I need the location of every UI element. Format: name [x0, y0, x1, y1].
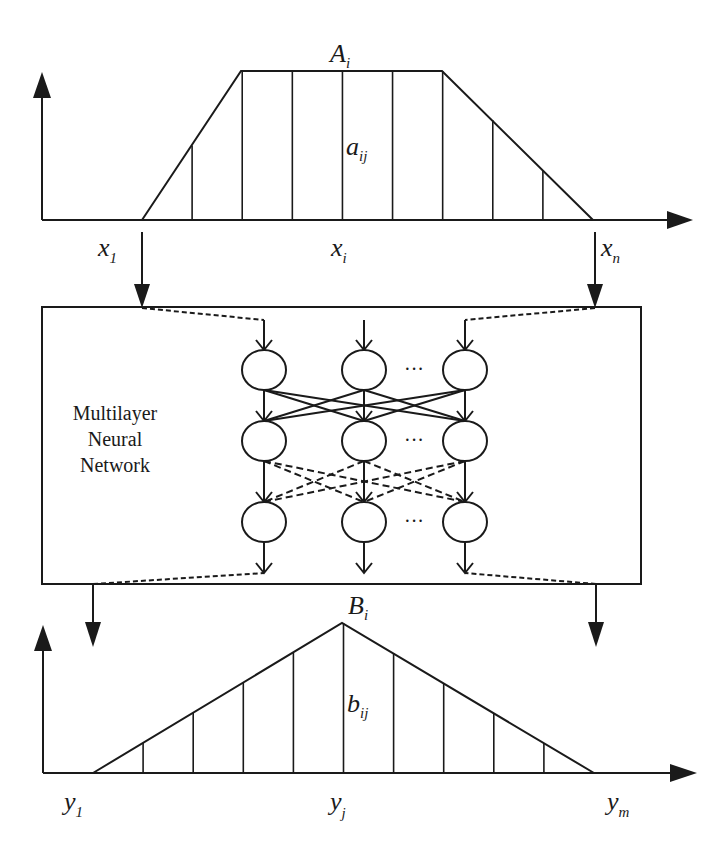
output-arrows [85, 584, 604, 647]
fan-in-left [142, 308, 264, 320]
input-x-axis-arrowhead [667, 211, 693, 229]
neural-network-box: Multilayer Neural Network ········· [42, 307, 641, 584]
input-set-label: Ai [328, 39, 350, 71]
input-member-label: aij [346, 132, 367, 164]
input-arrow-x1-head [134, 284, 150, 308]
input-arrow-xn-head [587, 284, 603, 308]
neuron-node-l2-n2 [342, 421, 386, 461]
neuron-node-l1-n3 [443, 350, 487, 390]
output-label-ym: ym [604, 787, 630, 820]
neuron-node-l2-n1 [242, 421, 286, 461]
trapezoid-membership-function [142, 71, 593, 220]
neuron-node-l3-n3 [443, 502, 487, 542]
neuron-node-l2-n3 [443, 421, 487, 461]
input-y-axis-arrowhead [33, 72, 51, 98]
output-label-y1: y1 [61, 787, 83, 820]
fuzzy-neural-diagram: Ai aij x1 xi xn Multilayer Neural Networ… [0, 0, 718, 855]
network-label-line-1: Multilayer [73, 402, 158, 425]
output-label-yj: yj [327, 787, 346, 821]
fan-out-left [93, 573, 264, 584]
output-y-axis-arrowhead [34, 625, 52, 651]
ellipsis-more-nodes: ··· [404, 358, 424, 380]
network-label-line-2: Neural [88, 428, 143, 450]
output-member-label: bij [347, 689, 368, 721]
output-set-label: Bi [348, 591, 368, 623]
input-membership-lines [192, 71, 543, 220]
network-label-line-3: Network [80, 454, 150, 476]
input-arrows [134, 232, 603, 308]
input-label-x1: x1 [97, 233, 117, 266]
fan-in-right [465, 308, 595, 320]
neuron-node-l1-n2 [342, 350, 386, 390]
output-membership-lines [143, 623, 544, 773]
ellipsis-more-nodes: ··· [404, 510, 424, 532]
output-arrow-ym-head [588, 622, 604, 647]
network-graph: ········· [242, 320, 487, 573]
output-arrow-y1-head [85, 622, 101, 647]
input-label-xi: xi [330, 233, 347, 266]
input-label-xn: xn [600, 233, 620, 266]
ellipsis-more-nodes: ··· [404, 429, 424, 451]
neuron-node-l3-n2 [342, 502, 386, 542]
neuron-node-l1-n1 [242, 350, 286, 390]
neuron-node-l3-n1 [242, 502, 286, 542]
output-x-axis-arrowhead [670, 764, 697, 782]
fan-out-right [465, 573, 596, 584]
input-fuzzy-set: Ai aij x1 xi xn [33, 39, 693, 266]
